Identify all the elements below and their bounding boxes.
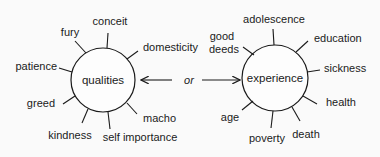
label-kindness: kindness: [48, 129, 92, 141]
spoke-poverty: [271, 111, 273, 128]
spoke-good-deeds: [243, 47, 254, 55]
spoke-health: [303, 96, 317, 104]
or-connector: or: [141, 74, 240, 86]
label-education: education: [314, 32, 362, 44]
spoke-age: [242, 101, 253, 110]
label-fury: fury: [61, 26, 80, 38]
spoke-macho: [127, 103, 137, 114]
spoke-adolescence: [273, 29, 274, 45]
label-age: age: [221, 111, 239, 123]
spoke-sickness: [307, 70, 320, 72]
label-poverty: poverty: [249, 132, 286, 144]
label-domesticity: domesticity: [143, 41, 199, 53]
label-adolescence: adolescence: [243, 13, 305, 25]
spoke-self-importance: [108, 112, 110, 129]
qualities-label: qualities: [82, 74, 124, 86]
experience-node: experience adolescence good deeds educat…: [209, 13, 367, 144]
qualities-experience-diagram: qualities conceit fury domesticity patie…: [0, 0, 380, 157]
label-conceit: conceit: [93, 15, 128, 27]
experience-label: experience: [247, 72, 303, 84]
spoke-greed: [63, 96, 75, 104]
label-self-importance: self importance: [103, 131, 178, 143]
spoke-domesticity: [127, 51, 138, 59]
spoke-education: [296, 41, 308, 52]
spoke-kindness: [82, 109, 88, 123]
label-greed: greed: [27, 97, 55, 109]
label-death: death: [292, 128, 320, 140]
label-good: good: [210, 30, 234, 42]
qualities-node: qualities conceit fury domesticity patie…: [15, 15, 198, 143]
or-label: or: [184, 74, 195, 86]
spoke-fury: [75, 41, 86, 53]
label-sickness: sickness: [324, 62, 367, 74]
label-health: health: [326, 96, 356, 108]
spoke-death: [292, 107, 300, 121]
label-macho: macho: [143, 112, 176, 124]
spoke-patience: [59, 68, 72, 72]
label-patience: patience: [15, 60, 57, 72]
label-deeds: deeds: [209, 43, 239, 55]
spoke-conceit: [107, 33, 108, 48]
